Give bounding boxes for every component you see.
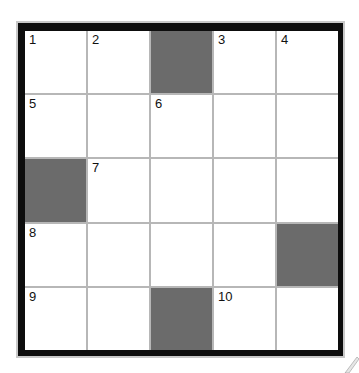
clue-number: 10 — [218, 290, 232, 303]
clue-number: 1 — [29, 33, 36, 46]
crossword-cell[interactable]: 10 — [214, 288, 275, 350]
crossword-cell[interactable] — [214, 95, 275, 157]
crossword-cell[interactable] — [88, 95, 149, 157]
crossword-cell[interactable] — [151, 159, 212, 221]
clue-number: 8 — [29, 226, 36, 239]
clue-number: 2 — [92, 33, 99, 46]
clue-number: 4 — [281, 33, 288, 46]
crossword-cell[interactable] — [214, 224, 275, 286]
crossword-cell[interactable]: 8 — [25, 224, 86, 286]
crossword-cell[interactable]: 3 — [214, 31, 275, 93]
crossword-cell[interactable]: 5 — [25, 95, 86, 157]
black-square — [151, 288, 212, 350]
crossword-cell[interactable] — [277, 95, 338, 157]
clue-number: 6 — [155, 97, 162, 110]
crossword-grid: 12345678910 — [25, 31, 338, 350]
crossword-board: 12345678910 — [18, 23, 343, 356]
crossword-cell[interactable]: 7 — [88, 159, 149, 221]
crossword-cell[interactable] — [214, 159, 275, 221]
crossword-cell[interactable]: 9 — [25, 288, 86, 350]
crossword-cell[interactable]: 4 — [277, 31, 338, 93]
clue-number: 9 — [29, 290, 36, 303]
crossword-cell[interactable] — [277, 288, 338, 350]
black-square — [25, 159, 86, 221]
clue-number: 7 — [92, 161, 99, 174]
clue-number: 5 — [29, 97, 36, 110]
crossword-cell[interactable] — [151, 224, 212, 286]
crossword-cell[interactable] — [88, 288, 149, 350]
black-square — [277, 224, 338, 286]
crossword-cell[interactable]: 6 — [151, 95, 212, 157]
crossword-cell[interactable] — [277, 159, 338, 221]
black-square — [151, 31, 212, 93]
crossword-cell[interactable]: 1 — [25, 31, 86, 93]
clue-number: 3 — [218, 33, 225, 46]
page-curl-icon — [343, 353, 359, 373]
crossword-cell[interactable]: 2 — [88, 31, 149, 93]
crossword-cell[interactable] — [88, 224, 149, 286]
